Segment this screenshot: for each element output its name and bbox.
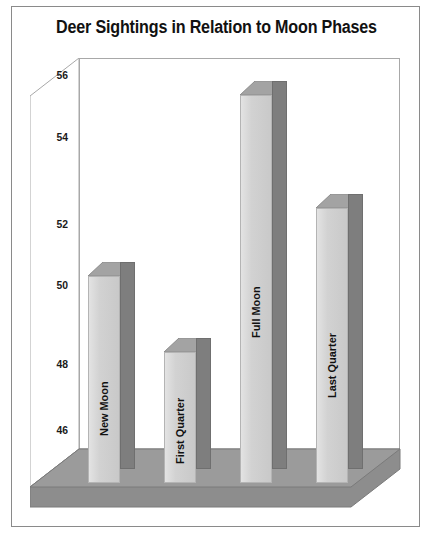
bar-label-first-quarter: First Quarter	[174, 398, 186, 464]
plot-area: 56 54 52 50 48 46 New Moon	[12, 7, 421, 528]
bar-label-last-quarter: Last Quarter	[326, 333, 338, 398]
bar-label-full-moon: Full Moon	[250, 286, 262, 338]
chart-frame: Deer Sightings in Relation to Moon Phase…	[11, 6, 420, 527]
bar-last-quarter[interactable]: Last Quarter	[316, 208, 348, 483]
bar-side-face	[272, 81, 287, 469]
bar-new-moon[interactable]: New Moon	[88, 276, 120, 483]
bar-side-face	[196, 338, 211, 469]
bar-front-face	[88, 276, 120, 483]
bar-full-moon[interactable]: Full Moon	[240, 95, 272, 483]
bar-side-face	[120, 262, 135, 469]
bar-side-face	[348, 194, 363, 469]
bar-series: New Moon First Quarter Full Moon	[12, 7, 421, 528]
bar-label-new-moon: New Moon	[98, 381, 110, 436]
bar-first-quarter[interactable]: First Quarter	[164, 352, 196, 483]
